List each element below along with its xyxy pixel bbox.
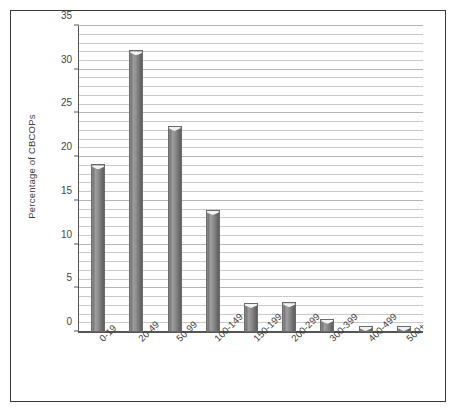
bar-slot [385, 26, 423, 332]
bar-slot [347, 26, 385, 332]
y-axis-tick-label: 20 [61, 141, 72, 152]
bar [244, 303, 258, 332]
bar-top-notch [283, 303, 295, 307]
chart-figure-frame: Percentage of CBCOPs 05101520253035 0-19… [10, 10, 446, 402]
bar-top-notch [207, 211, 219, 215]
bar [168, 126, 182, 332]
bar [282, 302, 296, 332]
bar-slot [308, 26, 346, 332]
bars-group [79, 26, 423, 332]
y-axis-tick-label: 15 [61, 184, 72, 195]
bar-slot [232, 26, 270, 332]
bar-slot [155, 26, 193, 332]
bar-top-notch [130, 51, 142, 55]
y-axis-tick-label: 5 [66, 272, 72, 283]
bar-top-notch [169, 127, 181, 131]
y-axis-tick-label: 0 [66, 316, 72, 327]
bar-slot [79, 26, 117, 332]
bar-slot [270, 26, 308, 332]
bar [91, 164, 105, 332]
bar-top-notch [245, 304, 257, 308]
y-axis-title: Percentage of CBCOPs [26, 87, 37, 247]
x-axis-labels-group: 0-1920-4950-99100-149150-199200-299300-3… [78, 336, 423, 406]
y-axis-tick-label: 25 [61, 97, 72, 108]
bar [206, 210, 220, 332]
bar-slot [117, 26, 155, 332]
bar [129, 50, 143, 332]
bar-top-notch [321, 320, 333, 324]
y-axis-tick-label: 10 [61, 228, 72, 239]
bar-top-notch [92, 165, 104, 169]
plot-area: 05101520253035 [78, 26, 423, 333]
bar-slot [194, 26, 232, 332]
y-axis-tick-label: 30 [61, 53, 72, 64]
y-axis-tick-label: 35 [61, 10, 72, 21]
